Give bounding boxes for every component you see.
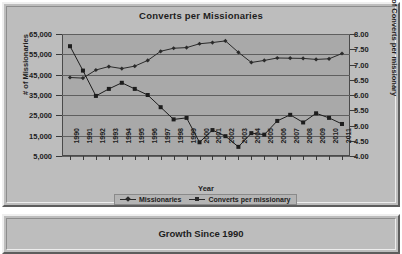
x-axis-tick xyxy=(290,156,291,160)
square-marker xyxy=(301,120,305,124)
square-marker-glyph xyxy=(195,197,199,201)
diamond-marker xyxy=(133,64,137,68)
x-axis-tick xyxy=(342,156,343,160)
diamond-marker xyxy=(275,56,279,60)
x-axis-tick xyxy=(161,156,162,160)
square-marker xyxy=(189,199,205,200)
square-marker xyxy=(107,87,111,91)
y-axis-right-tick-label: 8.00 xyxy=(354,30,394,39)
diamond-marker xyxy=(340,51,344,55)
series-line-2 xyxy=(70,46,342,147)
square-marker xyxy=(94,94,98,98)
diamond-marker xyxy=(197,42,201,46)
x-axis-tick xyxy=(225,156,226,160)
y-axis-left-title: # of Missionaries xyxy=(21,10,30,120)
y-axis-right-tick-label: 7.00 xyxy=(354,61,394,70)
square-marker xyxy=(185,116,189,120)
y-axis-right-tick-label: 4.00 xyxy=(354,152,394,161)
y-axis-right-tick-label: 7.50 xyxy=(354,45,394,54)
x-axis-tick xyxy=(109,156,110,160)
x-axis-tick xyxy=(96,156,97,160)
square-marker xyxy=(249,131,253,135)
diamond-marker xyxy=(288,56,292,60)
legend-item: Missionaries xyxy=(120,196,181,203)
square-marker xyxy=(133,87,137,91)
square-marker xyxy=(288,113,292,117)
square-marker xyxy=(146,93,150,97)
square-marker xyxy=(327,116,331,120)
y-axis-right-tick-label: 4.50 xyxy=(354,137,394,146)
y-axis-right-tick xyxy=(350,126,356,127)
diamond-marker xyxy=(314,57,318,61)
x-axis-tick xyxy=(251,156,252,160)
diamond-marker xyxy=(210,40,214,44)
diamond-marker xyxy=(107,64,111,68)
square-marker xyxy=(120,81,124,85)
x-axis-tick xyxy=(135,156,136,160)
x-axis-tick xyxy=(316,156,317,160)
square-marker xyxy=(172,117,176,121)
x-axis-tick xyxy=(174,156,175,160)
x-axis-tick xyxy=(238,156,239,160)
x-axis-tick xyxy=(187,156,188,160)
x-axis-tick xyxy=(200,156,201,160)
square-marker xyxy=(81,69,85,73)
y-axis-right-tick xyxy=(350,65,356,66)
square-marker xyxy=(314,111,318,115)
growth-panel-title: Growth Since 1990 xyxy=(4,228,398,239)
y-axis-right-tick-label: 6.00 xyxy=(354,91,394,100)
y-axis-right-tick-label: 5.00 xyxy=(354,122,394,131)
y-axis-right-tick xyxy=(350,80,356,81)
square-marker xyxy=(68,44,72,48)
square-marker xyxy=(340,122,344,126)
legend-label: Converts per missionary xyxy=(208,196,290,203)
y-axis-right-tick xyxy=(350,49,356,50)
square-marker xyxy=(210,128,214,132)
x-axis-tick xyxy=(264,156,265,160)
growth-panel: Growth Since 1990 xyxy=(2,214,400,254)
legend-item: Converts per missionary xyxy=(189,196,290,203)
diamond-marker xyxy=(120,199,136,200)
x-axis-title: Year xyxy=(62,184,350,193)
diamond-marker xyxy=(301,56,305,60)
chart-panel: Converts per Missionaries 65,00055,00045… xyxy=(2,2,400,207)
square-marker xyxy=(223,134,227,138)
y-axis-left-tick-label: 5,000 xyxy=(6,152,52,161)
diamond-marker xyxy=(120,66,124,70)
y-axis-right-tick xyxy=(350,95,356,96)
chart-legend: MissionariesConverts per missionary xyxy=(114,194,297,205)
x-axis-tick xyxy=(277,156,278,160)
x-axis-tick xyxy=(329,156,330,160)
plot-wrapper: 65,00055,00045,00035,00025,00015,0005,00… xyxy=(4,4,402,209)
diamond-marker xyxy=(262,58,266,62)
square-marker xyxy=(262,133,266,137)
y-axis-left-tick xyxy=(56,156,62,157)
x-axis-tick xyxy=(83,156,84,160)
square-marker xyxy=(159,105,163,109)
x-axis-tick xyxy=(303,156,304,160)
series-line-1 xyxy=(70,41,342,78)
square-marker xyxy=(236,145,240,149)
x-axis-tick xyxy=(212,156,213,160)
y-axis-right-tick xyxy=(350,110,356,111)
y-axis-right-title: # of Converts per missionary xyxy=(390,0,399,105)
diamond-marker xyxy=(327,57,331,61)
y-axis-right-tick-label: 5.50 xyxy=(354,106,394,115)
square-marker xyxy=(198,140,202,144)
diamond-marker xyxy=(68,75,72,79)
diamond-marker xyxy=(172,46,176,50)
y-axis-right-tick-label: 6.50 xyxy=(354,76,394,85)
series-plot xyxy=(62,34,350,156)
y-axis-right-tick xyxy=(350,34,356,35)
x-axis-tick xyxy=(122,156,123,160)
diamond-marker-glyph xyxy=(125,196,131,202)
square-marker xyxy=(275,119,279,123)
x-axis-tick xyxy=(70,156,71,160)
x-axis-tick xyxy=(148,156,149,160)
diamond-marker xyxy=(184,46,188,50)
legend-label: Missionaries xyxy=(139,196,181,203)
y-axis-left-tick-label: 15,000 xyxy=(6,132,52,141)
